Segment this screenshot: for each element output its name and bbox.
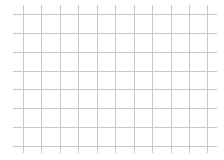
- empty-grid-chart: [0, 0, 224, 160]
